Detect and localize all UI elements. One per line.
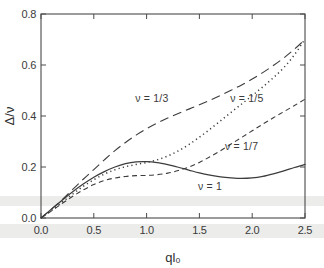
plot-svg: 0.00.20.40.60.8 0.00.51.01.52.02.5 Δ/ν q… xyxy=(0,0,324,268)
x-tick-label: 0.5 xyxy=(87,224,102,236)
curve-label-1: ν = 1 xyxy=(198,180,222,192)
x-axis-title: ql₀ xyxy=(165,250,181,265)
scan-smudge-upper xyxy=(0,196,324,206)
curve-label-1-5: ν = 1/5 xyxy=(230,92,263,104)
y-axis-title: Δ/ν xyxy=(2,107,17,126)
curve-label-1-7: ν = 1/7 xyxy=(225,140,258,152)
figure-container: 0.00.20.40.60.8 0.00.51.01.52.02.5 Δ/ν q… xyxy=(0,0,324,268)
curve-label-1-3: ν = 1/3 xyxy=(135,92,168,104)
y-tick-label: 0.0 xyxy=(22,212,37,224)
y-tick-label: 0.6 xyxy=(22,59,37,71)
x-tick-label: 1.5 xyxy=(192,224,207,236)
x-tick-label: 0.0 xyxy=(34,224,49,236)
x-tick-label: 2.0 xyxy=(245,224,260,236)
x-tick-label: 1.0 xyxy=(139,224,154,236)
x-tick-label: 2.5 xyxy=(298,224,313,236)
y-tick-label: 0.4 xyxy=(22,110,37,122)
y-tick-label: 0.8 xyxy=(22,8,37,20)
y-tick-label: 0.2 xyxy=(22,161,37,173)
scan-smudge-lower xyxy=(0,224,324,238)
